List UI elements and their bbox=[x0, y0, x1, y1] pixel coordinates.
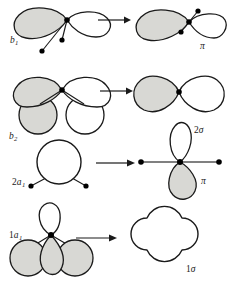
label-2a1: 2a1 bbox=[12, 178, 25, 188]
label-1a1-sub: 1 bbox=[19, 234, 22, 241]
orbital-pi-linear-top bbox=[136, 0, 226, 68]
label-1sigma-letter: σ bbox=[191, 264, 196, 274]
correlation-row-1a1: 1a1 1σ bbox=[0, 202, 227, 284]
orbital-pi-linear-mid bbox=[133, 121, 227, 201]
label-pi-mid: π bbox=[201, 177, 206, 187]
orbital-b2-bent bbox=[0, 68, 120, 142]
label-b1-sub: 1 bbox=[15, 39, 18, 46]
arrow-b1-to-pi bbox=[98, 14, 132, 26]
label-b1: b1 bbox=[10, 36, 18, 46]
label-1sigma: 1σ bbox=[186, 265, 195, 275]
orbital-1sigma-linear bbox=[128, 212, 225, 268]
orbital-b1-bent bbox=[0, 0, 120, 68]
label-2a1-sub: 1 bbox=[22, 181, 25, 188]
arrow-2a1-to-pi bbox=[96, 157, 136, 169]
label-1a1: 1a1 bbox=[9, 231, 22, 241]
orbital-correlation-figure: b1 π bbox=[0, 0, 227, 284]
correlation-row-b1: b1 π bbox=[0, 0, 227, 68]
label-pi-top-text: π bbox=[200, 41, 205, 51]
arrow-1a1-to-1sigma bbox=[76, 232, 118, 244]
correlation-row-2a1: 2a1 π bbox=[0, 140, 227, 202]
arrow-b2-to-2sigma bbox=[100, 85, 134, 97]
label-2a1-letter: a bbox=[17, 177, 22, 187]
orbital-2a1-bent bbox=[0, 140, 120, 202]
label-pi-mid-text: π bbox=[201, 176, 206, 186]
label-1a1-letter: a bbox=[14, 230, 19, 240]
label-pi-top: π bbox=[200, 42, 205, 52]
